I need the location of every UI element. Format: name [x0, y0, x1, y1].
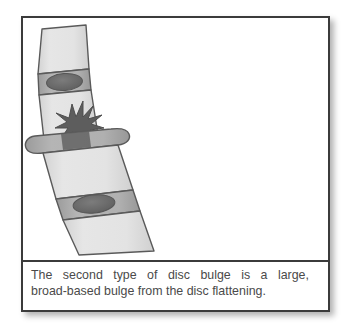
- spine-diagram-svg: lumbar-spine-segment-with-broad-based-di…: [23, 18, 328, 260]
- figure-frame: lumbar-spine-segment-with-broad-based-di…: [21, 16, 330, 312]
- upper-vertebral-body-shape: [38, 25, 89, 74]
- caption-word: of: [147, 268, 157, 284]
- spine-illustration: lumbar-spine-segment-with-broad-based-di…: [23, 18, 328, 260]
- caption-word: type: [113, 268, 136, 284]
- bulging-disc-degeneration: [61, 131, 91, 150]
- figure-caption: The second type of disc bulge is a large…: [23, 260, 328, 310]
- caption-line-2: broad-based bulge from the disc flatteni…: [31, 284, 320, 300]
- caption-word: is: [241, 268, 250, 284]
- caption-word: second: [63, 268, 103, 284]
- caption-word: large,: [278, 268, 309, 284]
- caption-word: a: [261, 268, 268, 284]
- caption-line-1: The second type of disc bulge is a large…: [31, 268, 309, 284]
- upper-vertebral-body: [38, 25, 89, 74]
- caption-word: bulge: [200, 268, 230, 284]
- caption-word: disc: [168, 268, 190, 284]
- caption-word: The: [31, 268, 52, 284]
